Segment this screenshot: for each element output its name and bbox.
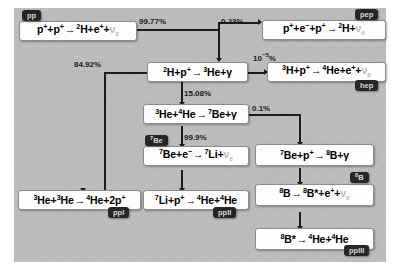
tag-pep: pep <box>355 9 378 20</box>
reaction-box-he3he4[interactable]: 3He+4He→7Be+γ <box>143 104 249 124</box>
reaction-b8-decay-equation: 8B→8B*+e++νe <box>279 188 350 201</box>
tag-ppII: ppII <box>213 207 236 218</box>
reaction-box-pp[interactable]: p++p+→2H+e++νe <box>19 21 137 41</box>
tag-hep-label: hep <box>360 81 373 90</box>
reaction-pp-equation: p++p+→2H+e++νe <box>37 24 119 37</box>
reaction-be7-capture-equation: 7Be+e−→7Li+νe <box>159 149 233 162</box>
connector-he3he4-to-be7capture <box>181 126 183 146</box>
branch-label-b8: 0.1% <box>252 105 270 113</box>
hep-branch-base: 10 <box>253 54 262 63</box>
reaction-box-deuterium[interactable]: 2H+p+→3He+γ <box>147 62 248 82</box>
reaction-he3he4-equation: 3He+4He→7Be+γ <box>155 109 237 120</box>
connector-ppI-v <box>104 72 106 192</box>
branch-label-pp-to-deuterium: 99.77% <box>139 18 166 26</box>
reaction-ppIII-equation: 8B*→4He+4He <box>280 234 348 245</box>
tag-pp-label: pp <box>27 11 36 20</box>
tag-pp: pp <box>22 10 41 21</box>
reaction-box-be7-capture[interactable]: 7Be+e−→7Li+νe <box>143 146 249 166</box>
tag-b8: 8B <box>350 172 369 183</box>
tag-ppI: ppI <box>108 207 129 218</box>
reaction-ppI-equation: 3He+3He→4He+2p+ <box>33 195 125 206</box>
tag-ppII-label: ppII <box>218 208 231 217</box>
tag-ppI-label: ppI <box>113 208 124 217</box>
tag-ppIII: ppIII <box>344 245 369 256</box>
connector-deuterium-to-he3he4 <box>181 82 183 104</box>
connector-b8branch-h <box>249 114 300 116</box>
reaction-box-hep[interactable]: 3H+p+→4He+e++νe <box>267 62 386 82</box>
branch-label-to-be7: 15.08% <box>184 90 211 98</box>
connector-b8branch-v <box>299 114 301 144</box>
tag-be7-label: Be <box>153 136 163 145</box>
reaction-box-b8-formation[interactable]: 7Be+p+→8B+γ <box>255 144 374 166</box>
branch-label-to-ppI: 84.92% <box>74 61 101 69</box>
tag-hep: hep <box>355 80 378 91</box>
connector-pp-to-deuterium-v <box>218 29 220 59</box>
reaction-box-b8-decay[interactable]: 8B→8B*+e++νe <box>255 184 374 206</box>
reaction-ppII-equation: 7Li+p+→4He+4He <box>155 195 237 206</box>
reaction-hep-equation: 3H+p+→4He+e++νe <box>282 65 371 78</box>
reaction-box-pep[interactable]: p++e−+p+→2H+νe <box>262 20 386 40</box>
hep-branch-exp: −5 <box>262 52 269 58</box>
reaction-pep-equation: p++e−+p+→2H+νe <box>283 23 365 36</box>
tag-be7: 7Be <box>145 135 168 146</box>
branch-label-pep: 0.23% <box>221 18 244 26</box>
connector-pp-to-deuterium-h <box>137 29 219 31</box>
connector-be7capture-to-ppII <box>181 170 183 190</box>
reaction-deuterium-equation: 2H+p+→3He+γ <box>163 67 232 78</box>
tag-ppIII-label: ppIII <box>349 246 364 255</box>
tag-pep-label: pep <box>360 10 373 19</box>
diagram-canvas: 99.77% 0.23% 84.92% 10−5% 15.08% 0.1% 99… <box>0 0 400 271</box>
tag-b8-label: B <box>358 173 363 182</box>
branch-label-be7-capture: 99.9% <box>184 134 207 142</box>
reaction-b8-formation-equation: 7Be+p+→8B+γ <box>280 150 349 161</box>
